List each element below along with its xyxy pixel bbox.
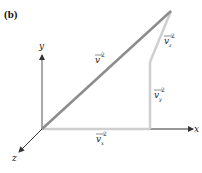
vy-label: v y 2 [154, 86, 165, 103]
panel-label: (b) [4, 8, 18, 21]
resultant-label: v 2 [95, 51, 105, 65]
svg-text:y: y [158, 96, 162, 103]
resultant-vector [42, 11, 171, 129]
x-axis-label: x [194, 124, 199, 134]
z-axis [19, 129, 42, 152]
vx-label: v x 2 [96, 130, 107, 146]
svg-text:x: x [101, 140, 104, 146]
svg-text:2: 2 [161, 86, 165, 93]
z-axis-label: z [11, 153, 17, 163]
vector-diagram: (b) y x z v 2 v z 2 v y 2 v x 2 [0, 0, 202, 173]
y-axis-label: y [38, 41, 45, 51]
svg-text:2: 2 [101, 51, 105, 58]
svg-text:2: 2 [171, 32, 175, 39]
svg-text:z: z [168, 42, 172, 48]
svg-text:2: 2 [103, 130, 107, 137]
svg-text:v: v [95, 55, 100, 65]
vz-label: v z 2 [164, 32, 175, 48]
